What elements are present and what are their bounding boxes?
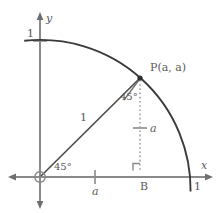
point-P-marker [137, 75, 142, 80]
radius-length-label: 1 [80, 112, 87, 123]
point-P-label: P(a, a) [150, 62, 186, 73]
x-axis-label: x [201, 160, 207, 171]
foot-point-B-label: B [140, 181, 148, 192]
x-axis-arrow-right-icon [205, 174, 213, 181]
vertical-segment-a-label: a [150, 123, 157, 134]
y-axis-label: y [46, 13, 52, 24]
y-axis-tick-one-label: 1 [27, 28, 34, 39]
angle-at-origin-label: 45° [54, 162, 72, 172]
angle-at-P-label: 45° [120, 92, 138, 102]
geometry-diagram: x y 1 1 a a P(a, a) 1 45° 45° B [0, 0, 219, 213]
right-angle-marker-at-B [133, 164, 140, 171]
y-axis-arrow-up-icon [37, 12, 44, 20]
y-axis-arrow-down-icon [37, 201, 44, 209]
x-axis-arrow-left-icon [8, 174, 16, 181]
x-axis [8, 174, 213, 181]
x-axis-tick-one-label: 1 [194, 181, 201, 192]
x-axis-tick-a-label: a [92, 186, 99, 197]
